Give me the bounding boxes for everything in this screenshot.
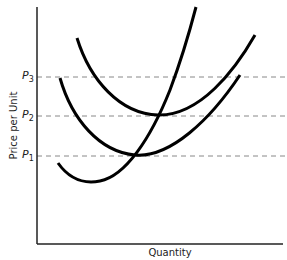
price-guide-lines [37, 77, 287, 156]
p3-label: P3 [22, 70, 34, 84]
p2-label: P2 [22, 109, 34, 123]
axes [37, 7, 283, 244]
cost-curves-diagram [0, 0, 287, 260]
p1-label: P1 [22, 149, 34, 163]
y-axis-label: Price per Unit [8, 81, 19, 171]
x-axis-label: Quantity [130, 247, 210, 258]
